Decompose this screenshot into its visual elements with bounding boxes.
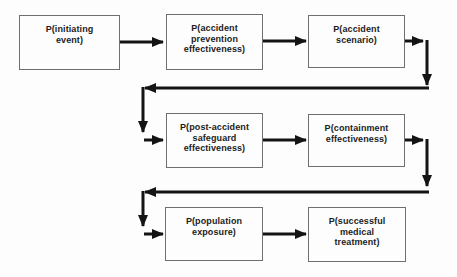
probability-flow-diagram: P(initiating event) P(accident preventio… bbox=[0, 0, 457, 277]
node-accident-prevention-effectiveness: P(accident prevention effectiveness) bbox=[166, 14, 263, 70]
node-initiating-event-label: P(initiating event) bbox=[46, 24, 94, 45]
node-initiating-event: P(initiating event) bbox=[19, 15, 120, 70]
node-successful-medical-treatment: P(successful medical treatment) bbox=[308, 207, 406, 262]
node-post-accident-safeguard-effectiveness-label: P(post-accident safeguard effectiveness) bbox=[180, 122, 249, 154]
node-containment-effectiveness: P(containment effectiveness) bbox=[308, 114, 405, 167]
node-population-exposure-label: P(population exposure) bbox=[186, 216, 242, 237]
node-accident-prevention-effectiveness-label: P(accident prevention effectiveness) bbox=[184, 23, 245, 55]
node-accident-scenario-label: P(accident scenario) bbox=[333, 24, 380, 45]
node-accident-scenario: P(accident scenario) bbox=[308, 15, 405, 68]
node-containment-effectiveness-label: P(containment effectiveness) bbox=[325, 123, 389, 144]
node-post-accident-safeguard-effectiveness: P(post-accident safeguard effectiveness) bbox=[166, 113, 263, 168]
node-population-exposure: P(population exposure) bbox=[165, 207, 263, 261]
node-successful-medical-treatment-label: P(successful medical treatment) bbox=[329, 216, 386, 248]
